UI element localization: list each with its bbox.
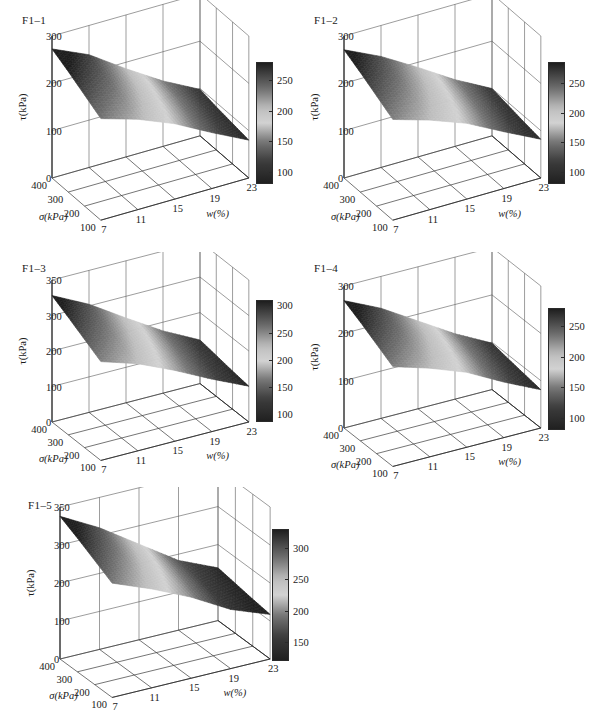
colorbar-tick-mark — [269, 111, 273, 112]
z-axis-label: τ(kPa) — [309, 344, 320, 371]
colorbar-tick-mark — [269, 360, 273, 361]
w-axis-label: w(%) — [498, 207, 521, 218]
surface-panel-f1-3: F1–30100200300350τ(kPa)400300200100σ(kPa… — [0, 252, 295, 485]
colorbar-tick-label: 100 — [569, 412, 585, 423]
colorbar-tick-mark — [269, 172, 273, 173]
colorbar-tick-label: 200 — [569, 351, 585, 362]
z-axis-label: τ(kPa) — [25, 570, 36, 597]
colorbar-tick-label: 150 — [293, 637, 309, 648]
z-axis-label: τ(kPa) — [17, 338, 28, 365]
colorbar-tick-label: 250 — [569, 321, 585, 332]
colorbar-tick-label: 200 — [277, 105, 293, 116]
w-axis-label: w(%) — [206, 450, 229, 461]
colorbar-tick-mark — [269, 333, 273, 334]
colorbar-tick-mark — [285, 611, 289, 612]
colorbar-tick-mark — [561, 418, 565, 419]
colorbar-tick-mark — [561, 142, 565, 143]
sigma-axis-tick-label: 100 — [91, 699, 107, 710]
surface-mesh — [52, 49, 249, 140]
w-axis-tick-label: 7 — [393, 224, 398, 235]
colorbar-tick-mark — [285, 548, 289, 549]
w-axis-tick-label: 11 — [428, 460, 438, 471]
w-axis-tick-label: 23 — [247, 426, 258, 437]
surface-panel-f1-4: F1–40100200300τ(kPa)400300200100σ(kPa)71… — [292, 252, 591, 485]
sigma-axis-tick-label: 300 — [339, 194, 355, 205]
w-axis-tick-label: 19 — [210, 435, 221, 446]
surface-mesh — [344, 301, 541, 390]
colorbar-tick-mark — [285, 642, 289, 643]
colorbar-tick-mark — [269, 141, 273, 142]
sigma-axis-tick-label: 400 — [31, 180, 47, 191]
sigma-axis-tick-label: 400 — [39, 661, 55, 672]
w-axis-tick-label: 15 — [465, 203, 476, 214]
surface-panel-f1-1: F1–10100200300τ(kPa)400300200100σ(kPa)71… — [0, 0, 295, 250]
colorbar-tick-label: 200 — [569, 107, 585, 118]
sigma-axis-tick-label: 300 — [339, 442, 355, 453]
sigma-axis-label: σ(kPa) — [331, 458, 360, 469]
colorbar-tick-mark — [561, 326, 565, 327]
colorbar-tick-label: 100 — [277, 408, 293, 419]
colorbar-tick-mark — [561, 83, 565, 84]
w-axis-label: w(%) — [498, 456, 521, 467]
sigma-axis-tick-label: 400 — [323, 180, 339, 191]
surface-panel-f1-2: F1–20100200300τ(kPa)400300200100σ(kPa)71… — [292, 0, 591, 250]
sigma-axis-tick-label: 100 — [80, 222, 96, 233]
sigma-axis-tick-label: 300 — [47, 436, 63, 447]
colorbar-tick-mark — [269, 414, 273, 415]
w-axis-tick-label: 11 — [136, 454, 146, 465]
sigma-axis-tick-label: 100 — [80, 462, 96, 473]
z-axis-label: τ(kPa) — [17, 94, 28, 121]
sigma-axis-tick-label: 300 — [47, 194, 63, 205]
colorbar-tick-label: 200 — [277, 354, 293, 365]
colorbar-tick-label: 150 — [569, 382, 585, 393]
surface-mesh — [344, 50, 541, 140]
colorbar-tick-label: 250 — [293, 574, 309, 585]
surface-panel-f1-5: F1–50100200300350τ(kPa)400300200100σ(kPa… — [0, 487, 330, 719]
axes-3d-box — [0, 252, 330, 502]
colorbar-tick-label: 200 — [293, 605, 309, 616]
w-axis-tick-label: 11 — [136, 213, 146, 224]
colorbar — [256, 300, 273, 422]
w-axis-tick-label: 7 — [101, 464, 106, 475]
colorbar-tick-mark — [561, 172, 565, 173]
colorbar-gradient — [273, 530, 288, 660]
sigma-axis-tick-label: 100 — [372, 468, 388, 479]
surface-mesh — [60, 516, 270, 614]
w-axis-tick-label: 7 — [101, 224, 106, 235]
w-axis-tick-label: 23 — [539, 432, 550, 443]
colorbar-tick-label: 150 — [277, 381, 293, 392]
colorbar-tick-mark — [561, 387, 565, 388]
w-axis-tick-label: 15 — [173, 445, 184, 456]
colorbar-tick-label: 250 — [569, 77, 585, 88]
colorbar-gradient — [257, 301, 272, 421]
colorbar-tick-label: 250 — [277, 75, 293, 86]
colorbar-tick-label: 250 — [277, 327, 293, 338]
colorbar — [548, 62, 565, 184]
w-axis-tick-label: 15 — [465, 451, 476, 462]
colorbar-tick-label: 300 — [293, 542, 309, 553]
w-axis-tick-label: 15 — [173, 203, 184, 214]
colorbar-tick-mark — [285, 579, 289, 580]
colorbar-tick-label: 100 — [569, 167, 585, 178]
sigma-axis-label: σ(kPa) — [49, 689, 78, 700]
sigma-axis-label: σ(kPa) — [39, 211, 68, 222]
colorbar-tick-mark — [269, 305, 273, 306]
colorbar-tick-label: 150 — [569, 137, 585, 148]
w-axis-tick-label: 19 — [502, 441, 513, 452]
w-axis-tick-label: 15 — [189, 682, 200, 693]
colorbar-tick-mark — [561, 357, 565, 358]
surface-mesh — [52, 296, 249, 387]
w-axis-tick-label: 11 — [428, 213, 438, 224]
sigma-axis-label: σ(kPa) — [39, 452, 68, 463]
w-axis-tick-label: 19 — [502, 192, 513, 203]
w-axis-tick-label: 19 — [210, 192, 221, 203]
colorbar-tick-mark — [561, 113, 565, 114]
colorbar-tick-mark — [269, 80, 273, 81]
sigma-axis-tick-label: 400 — [323, 430, 339, 441]
w-axis-tick-label: 19 — [228, 672, 239, 683]
w-axis-tick-label: 11 — [150, 691, 160, 702]
z-axis-label: τ(kPa) — [309, 94, 320, 121]
colorbar-tick-label: 300 — [277, 300, 293, 311]
w-axis-label: w(%) — [206, 207, 229, 218]
w-axis-tick-label: 23 — [268, 663, 279, 674]
